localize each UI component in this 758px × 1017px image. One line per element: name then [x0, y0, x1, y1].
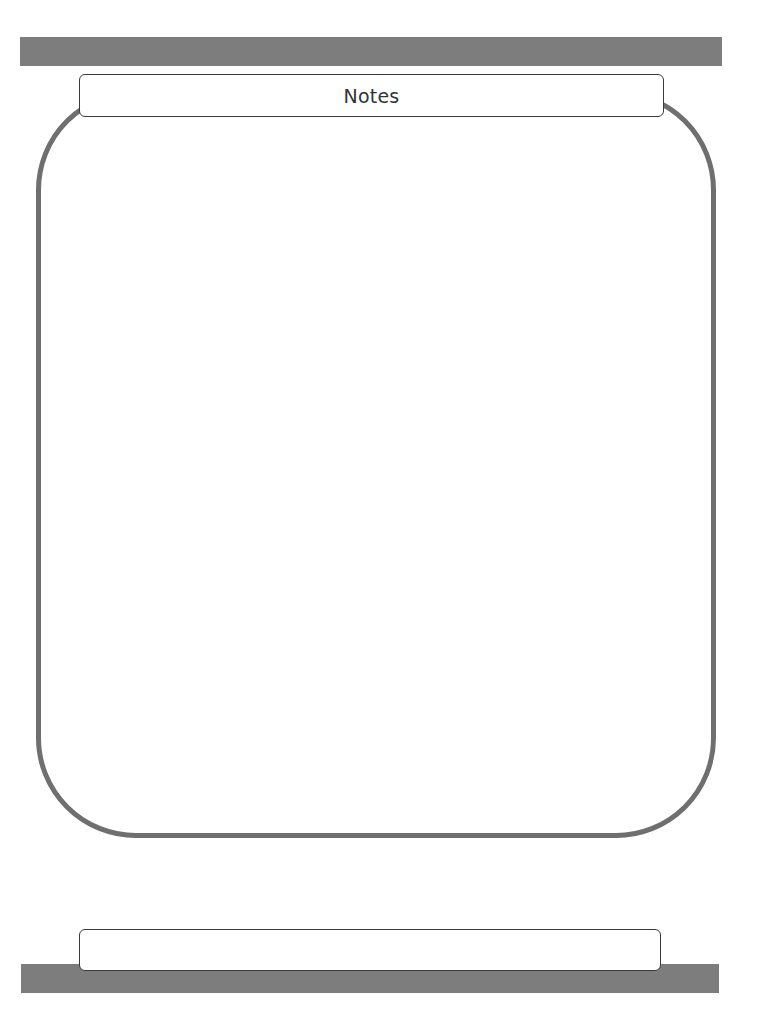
page-title: Notes	[344, 85, 400, 107]
footer-box[interactable]	[79, 929, 661, 971]
header-box: Notes	[79, 74, 664, 117]
top-decorative-bar	[20, 37, 722, 66]
notes-area[interactable]	[60, 130, 690, 810]
